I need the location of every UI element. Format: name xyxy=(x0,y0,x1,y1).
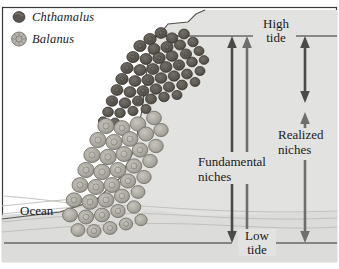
realized-niches-line1: Realized xyxy=(278,128,323,143)
high-tide-label-line2: tide xyxy=(259,31,293,45)
ocean-label: Ocean xyxy=(20,203,53,219)
legend-item-balanus: Balanus xyxy=(8,28,158,50)
legend-label-balanus: Balanus xyxy=(30,32,74,47)
realized-niches-label: Realized niches xyxy=(276,128,325,157)
high-tide-label-line1: High xyxy=(259,17,293,31)
high-tide-label: High tide xyxy=(256,17,296,44)
legend: Chthamalus Balanus xyxy=(8,6,158,50)
legend-item-chthamalus: Chthamalus xyxy=(8,6,158,28)
legend-label-chthamalus: Chthamalus xyxy=(30,10,94,25)
fundamental-niches-line2: niches xyxy=(198,170,266,185)
realized-niches-line2: niches xyxy=(278,143,323,158)
balanus-barnacle-icon xyxy=(8,30,30,48)
fundamental-niches-line1: Fundamental xyxy=(198,155,266,170)
chthamalus-barnacle-icon xyxy=(8,8,30,26)
low-tide-label-line2: tide xyxy=(241,243,273,257)
figure-canvas: Chthamalus Balanus High tide Low tide Fu… xyxy=(0,0,339,269)
fundamental-niches-label: Fundamental niches xyxy=(196,155,268,184)
low-tide-label-line1: Low xyxy=(241,229,273,243)
low-tide-label: Low tide xyxy=(238,229,276,256)
